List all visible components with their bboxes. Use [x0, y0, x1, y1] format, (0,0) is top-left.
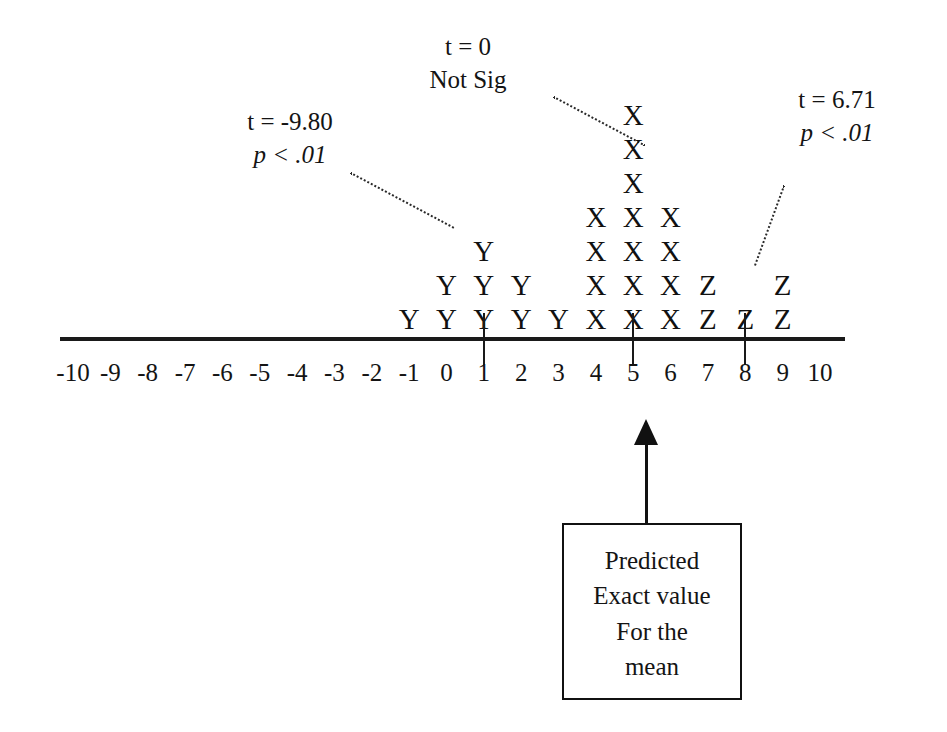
- glyph-Z-7-1: Z: [693, 305, 723, 334]
- glyph-X-5-5: X: [618, 169, 648, 198]
- glyph-Z-9-1: Z: [768, 305, 798, 334]
- glyph-X-5-4: X: [618, 203, 648, 232]
- glyph-Y-2-2: Y: [506, 271, 536, 300]
- glyph-Y--1-1: Y: [394, 305, 424, 334]
- number-line-axis: [60, 337, 845, 341]
- glyph-X-4-2: X: [581, 271, 611, 300]
- callout-box-line-1: Predicted: [605, 543, 699, 579]
- glyph-Y-2-1: Y: [506, 305, 536, 334]
- glyph-Y-3-1: Y: [544, 305, 574, 334]
- glyph-Y-0-1: Y: [432, 305, 462, 334]
- glyph-X-4-4: X: [581, 203, 611, 232]
- callout-box-line-2: Exact value: [593, 578, 710, 614]
- predicted-mean-callout-box: Predicted Exact value For the mean: [562, 523, 742, 700]
- callout-box-line-3: For the: [616, 614, 688, 650]
- glyph-X-4-1: X: [581, 305, 611, 334]
- glyph-X-5-2: X: [618, 271, 648, 300]
- glyph-X-6-1: X: [656, 305, 686, 334]
- glyph-Y-0-2: Y: [432, 271, 462, 300]
- glyph-X-5-3: X: [618, 237, 648, 266]
- glyph-Y-1-3: Y: [469, 237, 499, 266]
- axis-tick-1: [483, 313, 485, 365]
- axis-tick-5: [632, 313, 634, 365]
- glyph-X-6-2: X: [656, 271, 686, 300]
- letter-dot-plot: YYYYYYYYYXXXXXXXXXXXXXXXZZZZZ: [0, 0, 947, 330]
- glyph-Y-1-2: Y: [469, 271, 499, 300]
- glyph-X-6-3: X: [656, 237, 686, 266]
- glyph-Z-7-2: Z: [693, 271, 723, 300]
- glyph-Z-9-2: Z: [768, 271, 798, 300]
- arrow-shaft: [645, 440, 648, 525]
- callout-box-line-4: mean: [625, 649, 679, 685]
- glyph-X-4-3: X: [581, 237, 611, 266]
- glyph-X-5-6: X: [618, 135, 648, 164]
- axis-tick-8: [744, 313, 746, 365]
- axis-label-10: 10: [797, 360, 843, 385]
- glyph-X-6-4: X: [656, 203, 686, 232]
- glyph-X-5-7: X: [618, 101, 648, 130]
- figure-canvas: t = 0 Not Sig t = -9.80 p < .01 t = 6.71…: [0, 0, 947, 732]
